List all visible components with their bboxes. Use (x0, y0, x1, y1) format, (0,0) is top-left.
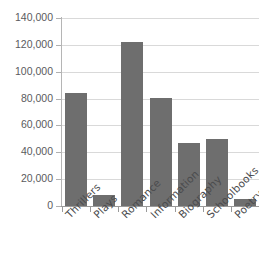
y-axis-tick-label: 140,000 (0, 11, 53, 23)
y-axis-tick-label: 100,000 (0, 65, 53, 77)
gridline (62, 18, 259, 19)
gridline (62, 72, 259, 73)
gridline (62, 45, 259, 46)
y-axis-tick-label: 80,000 (0, 92, 53, 104)
bar (65, 93, 87, 206)
y-axis-tick-label: 0 (0, 199, 53, 211)
y-axis-tick-label: 120,000 (0, 38, 53, 50)
y-axis-tick-label: 60,000 (0, 118, 53, 130)
y-axis-tick-label: 40,000 (0, 145, 53, 157)
bar (121, 42, 143, 206)
plot-area (62, 18, 259, 206)
bar-chart: 020,00040,00060,00080,000100,000120,0001… (0, 0, 259, 269)
y-axis-tick-label: 20,000 (0, 172, 53, 184)
